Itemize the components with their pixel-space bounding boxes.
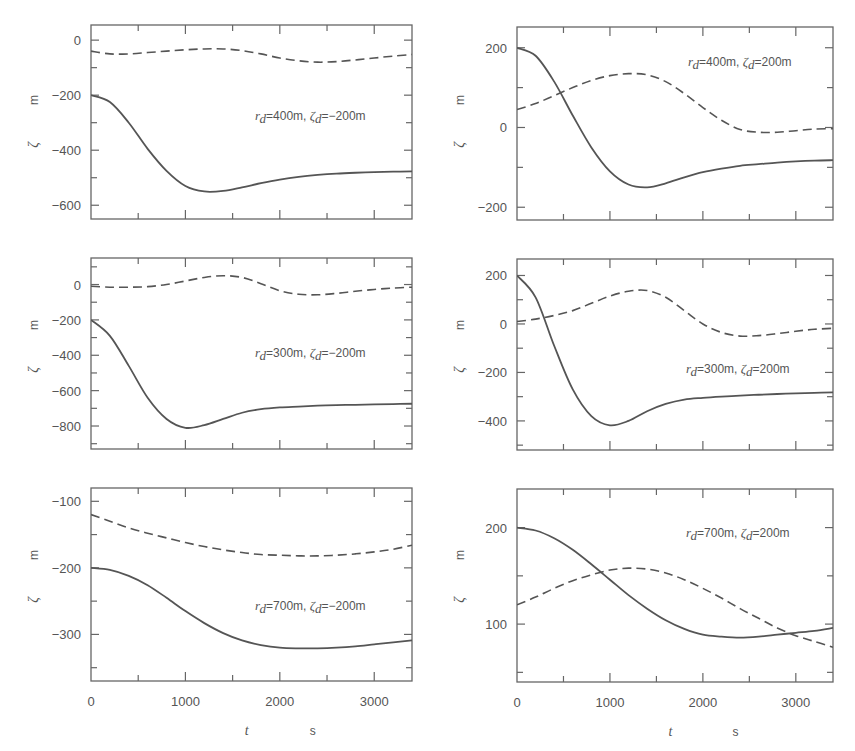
y-tick-label: −300 xyxy=(52,627,81,642)
y-tick-label: −200 xyxy=(52,561,81,576)
panel-annotation: rd=400m, ζd=−200m xyxy=(255,108,366,126)
x-axis-unit: s xyxy=(310,724,316,738)
panel-bottom-right: 2001000100020003000tsmζrd=700m, ζd=200m xyxy=(452,489,833,739)
y-axis-unit: m xyxy=(27,95,41,105)
y-tick-label: −200 xyxy=(52,313,81,328)
y-tick-label: −600 xyxy=(52,384,81,399)
panel-middle-right: 2000−200−400mζrd=300m, ζd=200m xyxy=(452,259,833,450)
y-tick-label: 0 xyxy=(500,317,507,332)
panel-annotation: rd=300m, ζd=200m xyxy=(686,361,790,379)
x-tick-label: 0 xyxy=(513,695,520,710)
x-tick-label: 3000 xyxy=(360,694,389,709)
y-tick-label: −400 xyxy=(52,348,81,363)
y-tick-label: 0 xyxy=(74,33,81,48)
solid-curve xyxy=(517,528,833,638)
dashed-curve xyxy=(517,74,833,133)
plot-frame xyxy=(517,489,833,682)
x-tick-label: 0 xyxy=(87,694,94,709)
y-tick-label: −400 xyxy=(52,143,81,158)
x-tick-label: 3000 xyxy=(781,695,810,710)
y-axis-unit: m xyxy=(453,550,467,560)
y-axis-unit: m xyxy=(453,95,467,105)
panel-annotation: rd=300m, ζd=−200m xyxy=(255,345,366,363)
y-tick-label: −200 xyxy=(478,200,507,215)
y-axis-label: ζ xyxy=(452,141,467,148)
plot-frame xyxy=(91,488,412,681)
y-tick-label: −100 xyxy=(52,494,81,509)
x-tick-label: 1000 xyxy=(595,695,624,710)
solid-curve xyxy=(517,275,833,425)
panel-bottom-left: −100−200−3000100020003000tsmζrd=700m, ζd… xyxy=(26,488,412,738)
x-axis-label: t xyxy=(668,724,673,739)
y-tick-label: −600 xyxy=(52,198,81,213)
y-axis-label: ζ xyxy=(26,141,41,148)
dashed-curve xyxy=(91,276,412,295)
y-tick-label: 0 xyxy=(74,278,81,293)
y-tick-label: 200 xyxy=(485,521,507,536)
y-tick-label: 200 xyxy=(485,41,507,56)
panel-middle-left: 0−200−400−600−800mζrd=300m, ζd=−200m xyxy=(26,258,412,449)
dashed-curve xyxy=(91,49,412,62)
solid-curve xyxy=(91,320,412,428)
x-axis-unit: s xyxy=(732,725,738,739)
y-tick-label: −200 xyxy=(478,365,507,380)
y-axis-label: ζ xyxy=(452,596,467,603)
y-tick-label: 0 xyxy=(500,120,507,135)
figure-canvas: 0−200−400−600mζrd=400m, ζd=−200m2000−200… xyxy=(0,0,855,751)
y-axis-unit: m xyxy=(453,320,467,330)
y-tick-label: −800 xyxy=(52,419,81,434)
x-tick-label: 2000 xyxy=(688,695,717,710)
panel-top-left: 0−200−400−600mζrd=400m, ζd=−200m xyxy=(26,25,412,219)
y-tick-label: 100 xyxy=(485,617,507,632)
y-axis-label: ζ xyxy=(452,366,467,373)
y-tick-label: 200 xyxy=(485,268,507,283)
y-tick-label: −200 xyxy=(52,88,81,103)
dashed-curve xyxy=(517,568,833,647)
y-axis-label: ζ xyxy=(26,366,41,373)
x-tick-label: 2000 xyxy=(265,694,294,709)
y-axis-unit: m xyxy=(27,320,41,330)
x-axis-label: t xyxy=(245,723,250,738)
panel-annotation: rd=700m, ζd=200m xyxy=(686,525,790,543)
dashed-curve xyxy=(91,515,412,556)
y-tick-label: −400 xyxy=(478,414,507,429)
dashed-curve xyxy=(517,290,833,336)
panel-annotation: rd=700m, ζd=−200m xyxy=(255,598,366,616)
panel-top-right: 2000−200mζrd=400m, ζd=200m xyxy=(452,27,833,220)
y-axis-label: ζ xyxy=(26,596,41,603)
plot-frame xyxy=(517,259,833,450)
panel-annotation: rd=400m, ζd=200m xyxy=(688,54,792,72)
y-axis-unit: m xyxy=(27,550,41,560)
x-tick-label: 1000 xyxy=(171,694,200,709)
